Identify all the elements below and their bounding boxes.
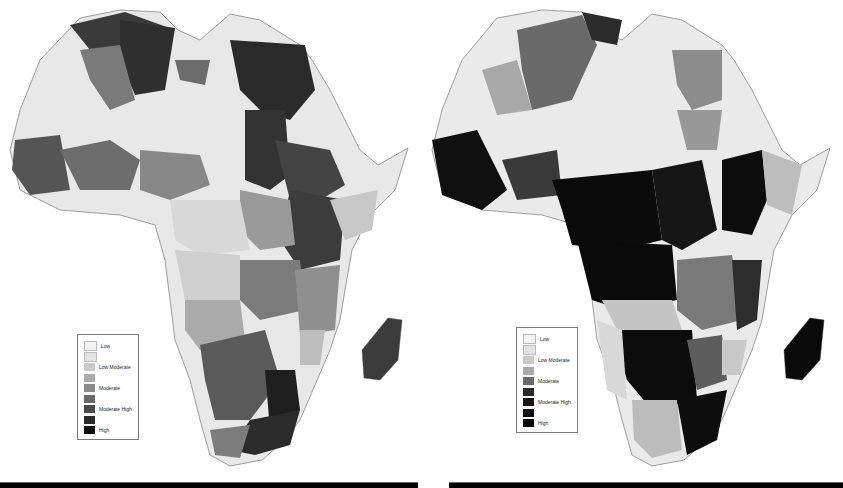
swatch-moderate bbox=[84, 384, 95, 392]
swatch-moderate bbox=[523, 377, 534, 385]
legend-item-moderate-high: Moderate High bbox=[523, 397, 573, 408]
legend-item-level-6 bbox=[84, 394, 134, 405]
legend-item-level-8 bbox=[84, 415, 134, 426]
swatch-level-6 bbox=[523, 388, 534, 396]
legend-item-low: Low bbox=[523, 334, 573, 345]
swatch-low bbox=[84, 341, 97, 351]
legend-item-low: Low bbox=[84, 341, 134, 352]
legend-item-moderate-high: Moderate High bbox=[84, 404, 134, 415]
legend-item-level-2 bbox=[523, 345, 573, 356]
legend-item-moderate: Moderate bbox=[523, 376, 573, 387]
bottom-bar-left bbox=[0, 482, 418, 488]
swatch-low bbox=[523, 334, 536, 344]
legend-item-level-2 bbox=[84, 352, 134, 363]
legend-item-level-4 bbox=[84, 373, 134, 384]
legend-item-high: High bbox=[84, 425, 134, 436]
swatch-high bbox=[84, 426, 95, 434]
swatch-level-2 bbox=[84, 352, 97, 362]
swatch-level-8 bbox=[84, 416, 95, 424]
legend-item-level-4 bbox=[523, 366, 573, 377]
swatch-moderate-high bbox=[523, 398, 534, 406]
map-right-africa: Low Low Moderate Moderate Moderate High … bbox=[422, 0, 843, 480]
legend-left: Low Low Moderate Moderate Moderate High … bbox=[77, 334, 139, 440]
swatch-low-moderate bbox=[84, 363, 95, 371]
legend-item-moderate: Moderate bbox=[84, 383, 134, 394]
swatch-level-4 bbox=[84, 374, 95, 382]
swatch-level-4 bbox=[523, 367, 534, 375]
swatch-low-moderate bbox=[523, 356, 534, 364]
legend-item-high: High bbox=[523, 418, 573, 429]
swatch-level-8 bbox=[523, 409, 534, 417]
africa-choropleth-right bbox=[422, 0, 843, 480]
map-left-africa: Low Low Moderate Moderate Moderate High … bbox=[0, 0, 421, 480]
legend-item-low-moderate: Low Moderate bbox=[523, 355, 573, 366]
swatch-moderate-high bbox=[84, 405, 95, 413]
legend-item-level-6 bbox=[523, 387, 573, 398]
swatch-high bbox=[523, 419, 534, 427]
africa-choropleth-left bbox=[0, 0, 421, 480]
bottom-bar-right bbox=[449, 482, 843, 488]
legend-right: Low Low Moderate Moderate Moderate High … bbox=[516, 327, 578, 433]
swatch-level-2 bbox=[523, 345, 536, 355]
swatch-level-6 bbox=[84, 395, 95, 403]
legend-item-level-8 bbox=[523, 408, 573, 419]
legend-item-low-moderate: Low Moderate bbox=[84, 362, 134, 373]
